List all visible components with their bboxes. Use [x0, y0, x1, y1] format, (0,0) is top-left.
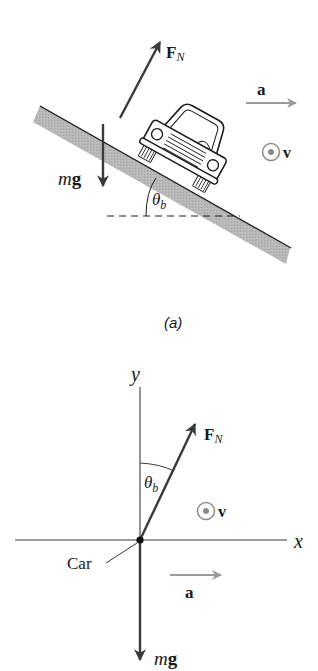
bank-angle-arc — [140, 463, 174, 471]
velocity-label: v — [283, 144, 291, 161]
car-point — [136, 536, 143, 543]
weight-label: mg — [154, 648, 178, 669]
acceleration-label: a — [257, 80, 266, 99]
velocity-label: v — [218, 503, 226, 520]
acceleration-label: a — [185, 583, 194, 602]
figure-caption: (a) — [164, 314, 182, 331]
car-label: Car — [67, 554, 92, 573]
car-leader-line — [106, 543, 137, 563]
bank-angle-label: θb — [144, 473, 158, 495]
normal-force-label: FN — [204, 425, 223, 446]
weight-label: mg — [58, 168, 82, 189]
figure-a: θb — [33, 42, 296, 331]
circle-dot-icon — [263, 144, 280, 161]
normal-force-arrow — [120, 42, 160, 118]
circle-dot-icon — [198, 503, 215, 520]
normal-force-label: FN — [166, 43, 185, 64]
banked-curve-figure: θb — [0, 0, 318, 671]
figure-b-free-body-diagram: y x θb FN v mg Car a — [15, 363, 303, 669]
y-axis-label: y — [129, 363, 140, 386]
x-axis-label: x — [293, 530, 303, 552]
